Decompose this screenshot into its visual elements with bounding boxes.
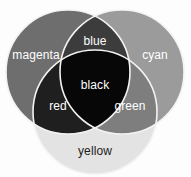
label-magenta: magenta [12,48,60,62]
label-blue: blue [83,34,106,48]
label-green: green [114,99,145,113]
label-yellow: yellow [78,144,112,158]
label-black: black [81,78,110,92]
venn-diagram-figure: magenta cyan yellow blue red green black [0,0,191,177]
label-red: red [49,99,67,113]
venn-diagram-canvas: magenta cyan yellow blue red green black [0,0,191,177]
label-cyan: cyan [142,48,168,62]
